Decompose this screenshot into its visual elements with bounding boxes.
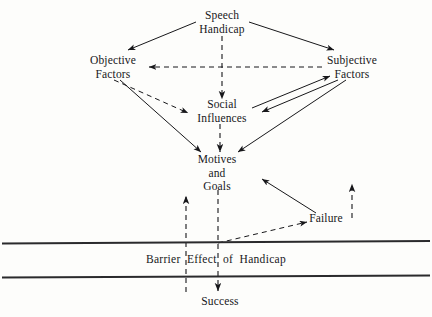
node-failure: Failure xyxy=(286,212,366,226)
barrier-band-label: Barrier Effect of Handicap xyxy=(116,253,316,265)
node-objective-factors: Objective Factors xyxy=(63,54,163,81)
node-success: Success xyxy=(180,295,260,309)
edge-subjective-to-social xyxy=(262,80,338,112)
edge-failure-to-motives xyxy=(262,179,316,213)
node-motives-and-goals: Motives and Goals xyxy=(167,153,267,194)
barrier-effect-diagram: Speech Handicap Objective Factors Subjec… xyxy=(0,0,432,317)
node-social-influences: Social Influences xyxy=(172,98,272,125)
barrier-bottom-line xyxy=(2,276,430,278)
node-subjective-factors: Subjective Factors xyxy=(302,54,402,81)
barrier-top-line xyxy=(2,241,430,244)
node-speech-handicap: Speech Handicap xyxy=(172,9,272,36)
